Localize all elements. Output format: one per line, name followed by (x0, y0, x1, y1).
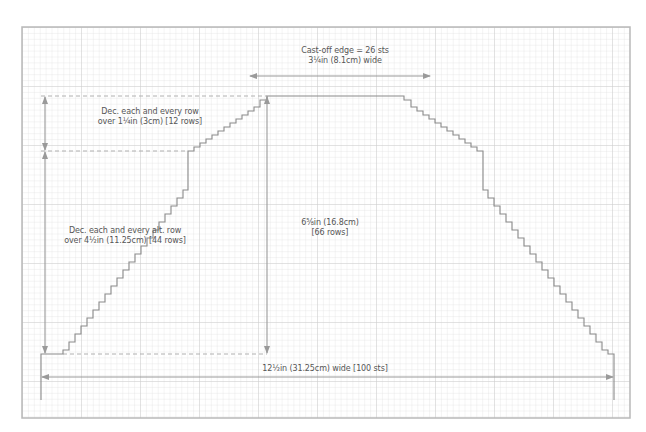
height-measure-text: 6⅝in (16.8cm) (290, 218, 370, 228)
every-row-dec-line1: Dec. each and every row (80, 107, 220, 117)
width-text: 12½in (31.25cm) wide [100 sts] (250, 364, 400, 374)
every-row-dec-line2: over 1¼in (3cm) [12 rows] (80, 117, 220, 127)
height-label: 6⅝in (16.8cm) [66 rows] (290, 218, 370, 238)
cast-off-label: Cast-off edge = 26 sts 3¼in (8.1cm) wide (280, 46, 410, 66)
alt-row-dec-line1: Dec. each and every alt. row (50, 226, 200, 236)
height-rows-text: [66 rows] (290, 228, 370, 238)
every-row-dec-label: Dec. each and every row over 1¼in (3cm) … (80, 107, 220, 127)
alt-row-dec-label: Dec. each and every alt. row over 4½in (… (50, 226, 200, 246)
cast-off-width-text: 3¼in (8.1cm) wide (280, 56, 410, 66)
cast-off-sts-text: Cast-off edge = 26 sts (280, 46, 410, 56)
alt-row-dec-line2: over 4½in (11.25cm) [44 rows] (50, 236, 200, 246)
width-label: 12½in (31.25cm) wide [100 sts] (250, 364, 400, 374)
